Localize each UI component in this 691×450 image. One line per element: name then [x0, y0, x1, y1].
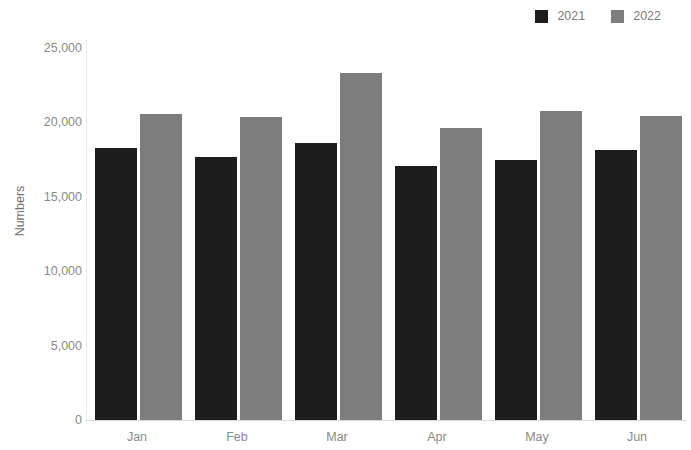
- bar-2021-jan[interactable]: [95, 148, 137, 420]
- bar-2021-apr[interactable]: [395, 166, 437, 420]
- bar-2021-feb[interactable]: [195, 157, 237, 420]
- x-tick-label: Jan: [87, 431, 187, 444]
- bar-group: Jun: [587, 0, 687, 450]
- y-tick-label: 10,000: [4, 265, 82, 278]
- bar-group: Mar: [287, 0, 387, 450]
- x-tick-label: Mar: [287, 431, 387, 444]
- bar-2021-jun[interactable]: [595, 150, 637, 420]
- bar-chart: 2021 2022 Numbers 05,00010,00015,00020,0…: [0, 0, 691, 450]
- y-tick-label: 0: [4, 414, 82, 427]
- y-tick-label: 15,000: [4, 191, 82, 204]
- bar-2022-may[interactable]: [540, 111, 582, 420]
- y-tick-label: 20,000: [4, 116, 82, 129]
- x-tick-label: May: [487, 431, 587, 444]
- bar-2021-may[interactable]: [495, 160, 537, 420]
- bar-group: Jan: [87, 0, 187, 450]
- bar-group: May: [487, 0, 587, 450]
- y-tick-label: 5,000: [4, 339, 82, 352]
- bar-group: Feb: [187, 0, 287, 450]
- x-tick-label: Feb: [187, 431, 287, 444]
- bar-group: Apr: [387, 0, 487, 450]
- y-axis-ticks: 05,00010,00015,00020,00025,000: [0, 0, 82, 450]
- bar-2022-jun[interactable]: [640, 116, 682, 420]
- bar-2022-jan[interactable]: [140, 114, 182, 420]
- x-tick-label: Jun: [587, 431, 687, 444]
- bar-2021-mar[interactable]: [295, 143, 337, 420]
- bar-2022-apr[interactable]: [440, 128, 482, 420]
- bar-2022-mar[interactable]: [340, 73, 382, 420]
- plot-area: JanFebMarAprMayJun: [87, 0, 687, 450]
- x-tick-label: Apr: [387, 431, 487, 444]
- bar-2022-feb[interactable]: [240, 117, 282, 420]
- y-tick-label: 25,000: [4, 42, 82, 55]
